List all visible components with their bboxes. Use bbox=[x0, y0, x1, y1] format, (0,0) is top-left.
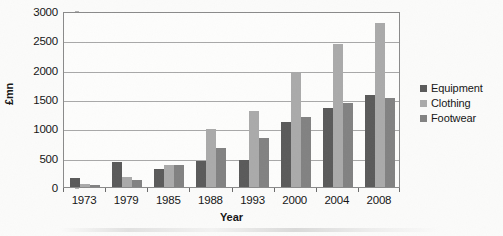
bar-group bbox=[70, 13, 100, 187]
bar[interactable] bbox=[323, 108, 333, 187]
bar[interactable] bbox=[385, 98, 395, 187]
bar-group bbox=[196, 13, 226, 187]
legend-label: Footwear bbox=[431, 112, 476, 124]
plot-area bbox=[63, 12, 400, 188]
y-tick-label: 500 bbox=[16, 153, 58, 165]
legend-item[interactable]: Clothing bbox=[420, 96, 502, 110]
y-tick-label: 3000 bbox=[16, 6, 58, 18]
x-tick-mark bbox=[232, 188, 233, 192]
bar[interactable] bbox=[206, 129, 216, 187]
bar[interactable] bbox=[196, 161, 206, 187]
x-axis-tick-labels: 19731979198519881993200020042008 bbox=[63, 194, 400, 210]
legend-item[interactable]: Footwear bbox=[420, 111, 502, 125]
bar[interactable] bbox=[259, 138, 269, 187]
x-tick-label: 1985 bbox=[146, 194, 190, 206]
bar[interactable] bbox=[174, 165, 184, 187]
legend-item[interactable]: Equipment bbox=[420, 81, 502, 95]
chart-legend: EquipmentClothingFootwear bbox=[420, 81, 502, 126]
y-tick-label: 2500 bbox=[16, 35, 58, 47]
scan-artifact-strip bbox=[60, 228, 440, 232]
bar-group bbox=[112, 13, 142, 187]
x-tick-mark bbox=[358, 188, 359, 192]
x-tick-label: 1993 bbox=[231, 194, 275, 206]
legend-swatch-icon bbox=[420, 100, 427, 107]
bar[interactable] bbox=[70, 178, 80, 187]
bar-chart-figure: £mn 050010001500200025003000 19731979198… bbox=[0, 0, 503, 236]
bar[interactable] bbox=[365, 95, 375, 187]
x-tick-mark bbox=[399, 188, 400, 192]
x-axis-tick-marks bbox=[63, 188, 400, 193]
y-tick-label: 2000 bbox=[16, 65, 58, 77]
bar[interactable] bbox=[112, 162, 122, 187]
x-tick-mark bbox=[63, 188, 64, 192]
bar[interactable] bbox=[249, 111, 259, 187]
x-tick-mark bbox=[189, 188, 190, 192]
bar[interactable] bbox=[281, 122, 291, 187]
y-axis-tick-labels: 050010001500200025003000 bbox=[16, 12, 58, 188]
bar[interactable] bbox=[343, 103, 353, 187]
y-axis-title: £mn bbox=[3, 72, 15, 116]
x-tick-label: 1988 bbox=[188, 194, 232, 206]
x-tick-mark bbox=[316, 188, 317, 192]
x-tick-mark bbox=[147, 188, 148, 192]
legend-label: Clothing bbox=[431, 97, 471, 109]
bars-layer bbox=[64, 13, 399, 187]
x-tick-label: 1973 bbox=[62, 194, 106, 206]
x-axis-title: Year bbox=[63, 211, 400, 223]
bar[interactable] bbox=[90, 185, 100, 187]
bar[interactable] bbox=[375, 23, 385, 187]
bar-group bbox=[281, 13, 311, 187]
bar[interactable] bbox=[301, 117, 311, 187]
bar-group bbox=[365, 13, 395, 187]
bar[interactable] bbox=[333, 44, 343, 187]
bar-group bbox=[154, 13, 184, 187]
x-tick-label: 2000 bbox=[273, 194, 317, 206]
y-tick-label: 0 bbox=[16, 182, 58, 194]
bar-group bbox=[323, 13, 353, 187]
y-tick-label: 1500 bbox=[16, 94, 58, 106]
y-tick-label: 1000 bbox=[16, 123, 58, 135]
bar[interactable] bbox=[164, 165, 174, 187]
bar[interactable] bbox=[80, 184, 90, 187]
x-tick-label: 1979 bbox=[104, 194, 148, 206]
bar[interactable] bbox=[239, 160, 249, 187]
x-tick-label: 2008 bbox=[357, 194, 401, 206]
bar[interactable] bbox=[154, 169, 164, 187]
bar-group bbox=[239, 13, 269, 187]
bar[interactable] bbox=[122, 177, 132, 187]
bar[interactable] bbox=[291, 73, 301, 187]
x-tick-mark bbox=[105, 188, 106, 192]
x-tick-mark bbox=[274, 188, 275, 192]
legend-label: Equipment bbox=[431, 82, 483, 94]
legend-swatch-icon bbox=[420, 85, 427, 92]
x-tick-label: 2004 bbox=[315, 194, 359, 206]
bar[interactable] bbox=[216, 148, 226, 187]
bar[interactable] bbox=[132, 180, 142, 187]
legend-swatch-icon bbox=[420, 115, 427, 122]
